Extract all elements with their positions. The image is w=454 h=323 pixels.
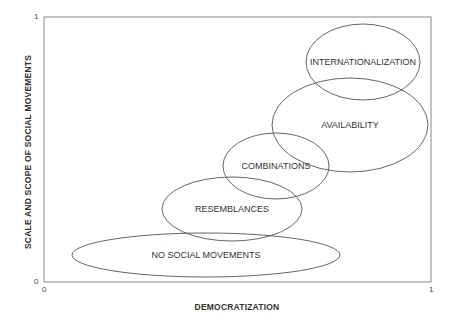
region-label-no-social-movements: NO SOCIAL MOVEMENTS bbox=[151, 250, 260, 260]
region-label-combinations: COMBINATIONS bbox=[242, 161, 311, 171]
region-label-internationalization: INTERNATIONALIZATION bbox=[310, 57, 416, 67]
y-axis-max-tick: 1 bbox=[34, 12, 38, 21]
x-axis-min-tick: 0 bbox=[42, 285, 46, 294]
diagram: SCALE AND SCOPE OF SOCIAL MOVEMENTS DEMO… bbox=[0, 0, 454, 323]
x-axis-max-tick: 1 bbox=[429, 285, 433, 294]
region-label-resemblances: RESEMBLANCES bbox=[195, 204, 269, 214]
region-label-availability: AVAILABILITY bbox=[321, 120, 379, 130]
x-axis-label: DEMOCRATIZATION bbox=[195, 302, 280, 312]
diagram-canvas bbox=[0, 0, 454, 323]
y-axis-label: SCALE AND SCOPE OF SOCIAL MOVEMENTS bbox=[23, 55, 33, 249]
y-axis-min-tick: 0 bbox=[34, 277, 38, 286]
